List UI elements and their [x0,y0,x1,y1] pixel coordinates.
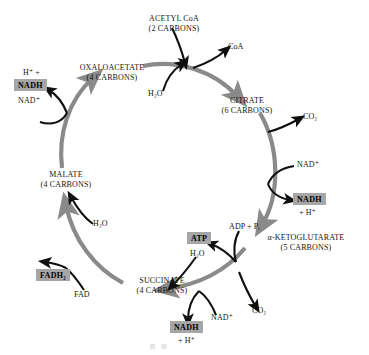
label-water-malate: H₂O [93,219,108,229]
arrow-fadh2-out [45,262,66,268]
arrow-co2-right-out [268,119,299,132]
arrow-water-top-in [163,64,182,91]
label-coa: CoA [228,42,243,52]
label-water-top: H₂O [148,89,163,99]
ketoglutarate-name: α-KETOGLUTARATE [248,233,364,243]
succinate-name: SUCCINATE [119,276,205,286]
acetyl-coa-carbons: (2 CARBONS) [134,24,214,34]
cycle-arc-malate-to-oxaloacetate [61,78,93,168]
arrow-coa-out [193,50,226,68]
label-fad: FAD [74,290,90,300]
arrow-nadh-bottom-out [188,291,199,320]
label-nadplus-bottom: NAD⁺ [211,313,233,323]
acetyl-coa-name: ACETYL CoA [134,14,214,24]
citrate-name: CITRATE [208,96,286,106]
krebs-cycle-diagram: ACETYL CoA (2 CARBONS) CoA OXALOACETATE … [0,0,369,355]
malate-name: MALATE [25,170,107,180]
label-adp-pi: ADP + Pᵢ [229,222,260,232]
arrow-nadplus-left-in [40,113,67,124]
highlight-nadh-right: NADH [293,193,326,205]
label-succinate: SUCCINATE (4 CARBONS) [119,276,205,295]
label-nadplus-left: NAD⁺ [18,96,40,106]
oxaloacetate-carbons: (4 CARBONS) [63,73,161,83]
label-h-plus-right: + H⁺ [299,208,316,218]
label-water-succinate: H₂O [190,249,205,259]
label-nadplus-right: NAD⁺ [297,160,319,170]
highlight-atp: ATP [187,232,211,244]
cycle-arc-succinate-to-malate [66,205,123,283]
arrow-acetyl-coa-in [172,28,185,63]
highlight-nadh-left: NADH [14,79,47,91]
label-h-plus-left: H⁺ + [23,68,40,78]
succinate-carbons: (4 CARBONS) [119,286,205,296]
label-malate: MALATE (4 CARBONS) [25,170,107,189]
highlight-nadh-bottom: NADH [170,321,203,333]
label-co2-right: CO₂ [303,112,317,122]
oxaloacetate-name: OXALOACETATE [63,63,161,73]
label-ketoglutarate: α-KETOGLUTARATE (5 CARBONS) [248,233,364,252]
label-co2-bottom: CO₂ [252,306,266,316]
label-citrate: CITRATE (6 CARBONS) [208,96,286,115]
highlight-fadh2: FADH₂ [36,269,70,281]
arrow-co2-bottom-out [239,272,256,307]
label-oxaloacetate: OXALOACETATE (4 CARBONS) [63,63,161,82]
arrow-atp-out [211,244,236,262]
citrate-carbons: (6 CARBONS) [208,106,286,116]
scan-artifact [150,344,176,349]
arrow-nadh-left-out [49,90,67,113]
malate-carbons: (4 CARBONS) [25,180,107,190]
arrow-nadplus-right-in [268,166,294,184]
label-acetyl-coa: ACETYL CoA (2 CARBONS) [134,14,214,33]
label-h-plus-bottom: + H⁺ [178,336,195,346]
arrow-water-malate-in [71,197,93,224]
ketoglutarate-carbons: (5 CARBONS) [248,243,364,253]
